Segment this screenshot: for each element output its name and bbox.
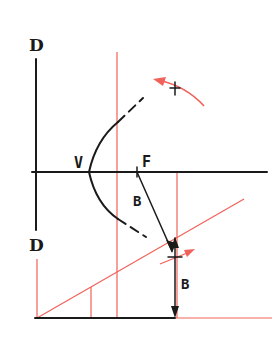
arc-arrowhead-icon — [153, 77, 166, 86]
construction-lines — [37, 52, 272, 319]
parabola-upper — [89, 122, 118, 172]
directrix-label-bottom: D — [29, 235, 44, 255]
parabola-lower-dashed — [118, 219, 146, 237]
parabola-diagram: D D V F B B — [0, 0, 278, 347]
distance-label-b-lower: B — [181, 276, 189, 292]
focus-segment-b — [137, 172, 172, 251]
red-rotation-arc — [158, 80, 204, 106]
ink-lines — [32, 59, 267, 318]
vertex-label: V — [74, 154, 83, 172]
red-diagonal — [37, 199, 244, 318]
offset-arrowhead-bottom-icon — [171, 306, 179, 318]
tick-arrowhead-icon — [184, 249, 195, 257]
focus-label: F — [142, 153, 151, 171]
parabola-lower — [89, 172, 118, 219]
distance-label-b-upper: B — [133, 193, 141, 209]
directrix-label-top: D — [29, 35, 44, 55]
parabola-upper-dashed — [118, 98, 143, 122]
